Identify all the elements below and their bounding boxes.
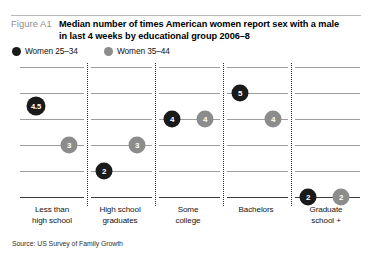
filled-circle-icon — [104, 47, 113, 56]
x-axis-labels: Less than high school High school gradua… — [20, 205, 360, 233]
figure-title-line-1: Median number of times American women re… — [59, 19, 365, 31]
group-separator — [291, 63, 293, 206]
group-separator — [223, 63, 225, 206]
header-divider — [11, 15, 361, 16]
legend-item-women-35-44: Women 35–44 — [104, 45, 170, 57]
label-line-1: High school — [88, 205, 152, 216]
data-point-women-25-34: 5 — [232, 85, 249, 102]
legend-label-women-35-44: Women 35–44 — [117, 46, 170, 56]
label-line-1: Graduate — [292, 205, 360, 216]
legend-label-women-25-34: Women 25–34 — [25, 46, 78, 56]
label-line-2: college — [156, 216, 220, 227]
data-point-women-35-44: 3 — [61, 137, 78, 154]
x-axis-label-some-college: Some college — [156, 205, 220, 226]
group-separator — [87, 63, 89, 206]
label-line-1: Less than — [20, 205, 84, 216]
plot-area: 4.5 3 2 3 4 4 5 4 2 2 — [20, 67, 360, 202]
label-line-2: high school — [20, 216, 84, 227]
data-point-women-25-34: 4.5 — [27, 97, 46, 116]
figure-number-label: Figure A1 — [11, 19, 52, 29]
gridline — [20, 67, 360, 68]
label-line-1: Bachelors — [224, 205, 288, 216]
x-axis-label-bachelors: Bachelors — [224, 205, 288, 216]
data-point-women-25-34: 2 — [96, 163, 113, 180]
label-line-1: Some — [156, 205, 220, 216]
x-axis-label-less-than-high-school: Less than high school — [20, 205, 84, 226]
data-point-women-25-34: 2 — [300, 189, 317, 206]
figure-a1-chart: Figure A1 Median number of times America… — [0, 0, 371, 256]
label-line-2: graduates — [88, 216, 152, 227]
gridline — [20, 119, 360, 120]
data-point-women-35-44: 4 — [265, 111, 282, 128]
x-axis-label-high-school-graduates: High school graduates — [88, 205, 152, 226]
filled-circle-icon — [12, 47, 21, 56]
figure-title-line-2: in last 4 weeks by educational group 200… — [59, 31, 365, 43]
gridline — [20, 171, 360, 172]
legend-item-women-25-34: Women 25–34 — [12, 45, 78, 57]
x-axis-label-graduate-school: Graduate school + — [292, 205, 360, 226]
source-note: Source: US Survey of Family Growth — [12, 240, 123, 247]
gridline — [20, 93, 360, 94]
page-title: Median number of times American women re… — [59, 19, 365, 42]
data-point-women-35-44: 4 — [197, 111, 214, 128]
data-point-women-35-44: 3 — [129, 137, 146, 154]
data-point-women-25-34: 4 — [164, 111, 181, 128]
label-line-2: school + — [292, 216, 360, 227]
data-point-women-35-44: 2 — [333, 189, 350, 206]
group-separator — [155, 63, 157, 206]
